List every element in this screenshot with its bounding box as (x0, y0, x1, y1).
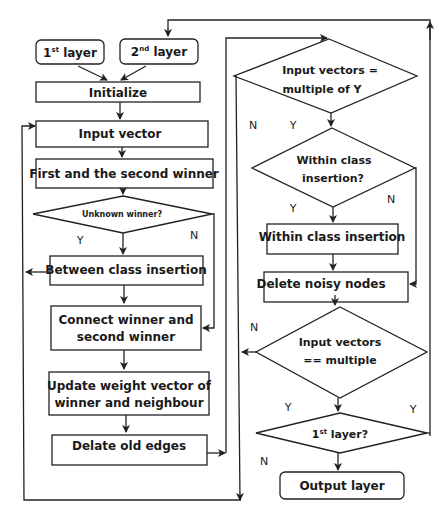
svg-text:Within class: Within class (296, 154, 372, 167)
svg-text:Update weight vector of: Update weight vector of (47, 379, 212, 393)
node-between-class-insertion: Between class insertion (45, 256, 206, 285)
svg-text:First and the second winner: First and the second winner (29, 167, 219, 181)
svg-text:Delete noisy nodes: Delete noisy nodes (256, 277, 385, 291)
svg-text:== multiple: == multiple (303, 354, 376, 367)
label-first-layer-n: N (260, 455, 268, 468)
node-delete-noisy-nodes: Delete noisy nodes (256, 272, 408, 302)
decision-input-multiple-of-y: Input vectors = multiple of Y (234, 39, 417, 113)
svg-text:1st layer: 1st layer (43, 46, 97, 60)
node-input-vector: Input vector (36, 121, 208, 147)
svg-text:Delate old edges: Delate old edges (72, 439, 186, 453)
svg-text:multiple of Y: multiple of Y (282, 83, 362, 96)
svg-text:Between class insertion: Between class insertion (45, 263, 206, 277)
node-first-second-winner: First and the second winner (29, 159, 219, 188)
decision-unknown-winner: Unknown winner? (33, 196, 212, 233)
node-connect-winner: Connect winner and second winner (51, 306, 201, 350)
node-1st-layer: 1st layer (36, 40, 104, 64)
label-multiple-y-n: N (249, 119, 257, 132)
label-unknown-n: N (190, 229, 198, 242)
node-initialize: Initialize (36, 82, 200, 102)
node-update-weight-vector: Update weight vector of winner and neigh… (47, 372, 212, 415)
node-delate-old-edges: Delate old edges (52, 435, 207, 465)
node-within-class-insertion: Within class insertion (259, 224, 406, 254)
node-output-layer: Output layer (280, 472, 404, 499)
svg-text:Input vector: Input vector (78, 127, 161, 141)
svg-text:Connect winner and: Connect winner and (58, 313, 193, 327)
label-within-y: Y (289, 202, 297, 215)
svg-text:Input vectors =: Input vectors = (282, 64, 378, 77)
svg-text:second winner: second winner (77, 330, 175, 344)
label-eq-multiple-n: N (250, 321, 258, 334)
svg-text:Initialize: Initialize (89, 86, 147, 100)
svg-text:Unknown winner?: Unknown winner? (82, 210, 162, 219)
label-unknown-y: Y (76, 234, 84, 247)
svg-text:Output layer: Output layer (299, 479, 384, 493)
label-within-n: N (387, 193, 395, 206)
label-multiple-y-y: Y (289, 119, 297, 132)
label-first-layer-y: Y (409, 403, 417, 416)
label-eq-multiple-y: Y (284, 401, 292, 414)
svg-text:winner and neighbour: winner and neighbour (54, 396, 203, 410)
svg-text:Input vectors: Input vectors (299, 336, 382, 349)
decision-input-vectors-eq-multiple: Input vectors == multiple (256, 307, 427, 398)
node-2nd-layer: 2nd layer (120, 39, 198, 64)
svg-text:insertion?: insertion? (302, 172, 364, 185)
svg-text:Within class insertion: Within class insertion (259, 230, 406, 244)
flowchart-canvas: 1st layer 2nd layer Initialize Input vec… (0, 0, 448, 517)
decision-first-layer: 1st layer? (256, 413, 427, 453)
